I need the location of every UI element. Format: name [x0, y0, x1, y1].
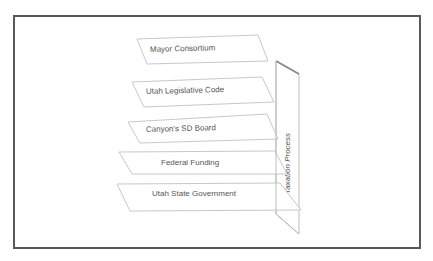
- plane-mayor-consortium: Mayor Consortium: [137, 35, 268, 64]
- plane-label: Utah State Government: [152, 189, 237, 198]
- plane-label: Mayor Consortium: [150, 43, 216, 54]
- plane-canyons-sd-board: Canyon's SD Board: [128, 114, 278, 143]
- plane-label: Federal Funding: [161, 158, 219, 167]
- side-panel-label: Taxation Process: [283, 133, 292, 194]
- plane-federal-funding: Federal Funding: [119, 151, 287, 174]
- plane-label: Canyon's SD Board: [146, 123, 216, 134]
- plane-utah-state-government: Utah State Government: [117, 183, 301, 211]
- plane-utah-legislative-code: Utah Legislative Code: [132, 77, 274, 107]
- diagram-canvas: Taxation Process Mayor Consortium Utah L…: [0, 0, 433, 261]
